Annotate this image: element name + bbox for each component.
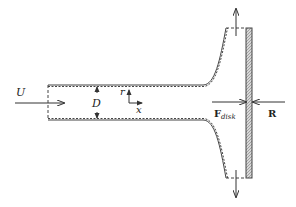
disk-force-symbol: F — [214, 108, 221, 119]
stream-tube-upper-wall — [48, 28, 228, 87]
radial-axis-label: r — [120, 86, 126, 97]
stream-tube-lower-wall — [48, 119, 228, 179]
axial-axis-label: x — [136, 104, 142, 115]
diameter-label: D — [91, 97, 101, 110]
actuator-disk — [246, 28, 252, 178]
stream-tube-diagram: U D r x Fdisk R — [0, 0, 296, 207]
disk-force-subscript: disk — [221, 113, 236, 121]
inflow-velocity-label: U — [16, 86, 26, 99]
disk-force-label: Fdisk — [214, 108, 236, 121]
coordinate-axes — [129, 90, 142, 103]
reaction-force-label: R — [268, 108, 277, 119]
